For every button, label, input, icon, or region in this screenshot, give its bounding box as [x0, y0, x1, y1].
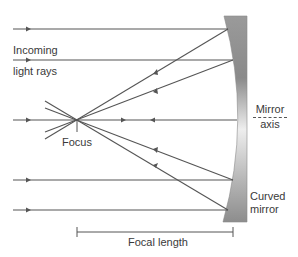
mirror-axis-label-line2: axis: [260, 118, 280, 130]
curved-mirror-label-line2: mirror: [250, 203, 279, 216]
mirror-axis-label: Mirror axis: [248, 103, 292, 131]
curved-mirror-shape: [223, 16, 247, 222]
concave-mirror-diagram: Incoming light rays Focus Mirror axis Cu…: [0, 0, 298, 257]
incoming-label-line1: Incoming: [13, 44, 58, 57]
curved-mirror-label-line1: Curved: [250, 190, 285, 203]
focal-length-label: Focal length: [128, 236, 188, 249]
mirror-axis-label-line1: Mirror: [256, 103, 285, 115]
focus-label: Focus: [62, 136, 92, 149]
incoming-label-line2: light rays: [13, 65, 57, 78]
